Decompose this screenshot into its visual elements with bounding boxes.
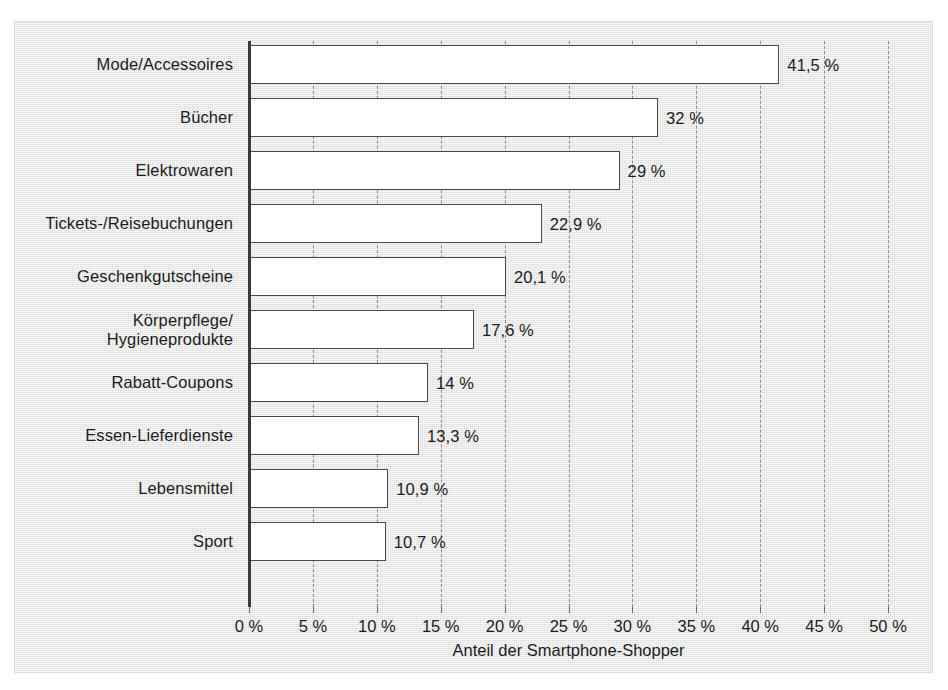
axis-tick: [441, 607, 442, 613]
axis-tick: [760, 607, 761, 613]
bar-row[interactable]: 10,9 %: [249, 469, 888, 508]
axis-tick: [824, 607, 825, 613]
bar-value-label: 29 %: [628, 161, 666, 180]
axis-tick-label: 25 %: [550, 617, 588, 636]
axis-tick-label: 20 %: [486, 617, 524, 636]
axis-tick-label: 50 %: [869, 617, 907, 636]
category-label: Elektrowaren: [3, 161, 233, 180]
bar-row[interactable]: 41,5 %: [249, 45, 888, 84]
axis-tick-label: 45 %: [805, 617, 843, 636]
axis-tick: [569, 607, 570, 613]
value-axis-spine: [248, 41, 251, 607]
bar-value-label: 22,9 %: [550, 214, 602, 233]
bar-value-label: 20,1 %: [514, 267, 566, 286]
axis-tick: [249, 607, 250, 613]
axis-tick-label: 40 %: [741, 617, 779, 636]
category-label: Tickets-/Reisebuchungen: [3, 214, 233, 233]
bar-row[interactable]: 29 %: [249, 151, 888, 190]
bar-value-label: 14 %: [436, 373, 474, 392]
axis-tick: [313, 607, 314, 613]
axis-tick-label: 5 %: [299, 617, 327, 636]
bar-row[interactable]: 17,6 %: [249, 310, 888, 349]
bar-value-label: 17,6 %: [482, 320, 534, 339]
bar-value-label: 41,5 %: [787, 55, 839, 74]
bar[interactable]: [249, 204, 542, 243]
category-label: Bücher: [3, 108, 233, 127]
category-label: Geschenkgutscheine: [3, 267, 233, 286]
bar-value-label: 10,7 %: [394, 532, 446, 551]
axis-tick-label: 0 %: [235, 617, 263, 636]
axis-tick: [632, 607, 633, 613]
category-label: Rabatt-Coupons: [3, 373, 233, 392]
bar-row[interactable]: 10,7 %: [249, 522, 888, 561]
plot-area: 41,5 %32 %29 %22,9 %20,1 %17,6 %14 %13,3…: [249, 41, 888, 607]
axis-tick-label: 10 %: [358, 617, 396, 636]
bar-value-label: 10,9 %: [396, 479, 448, 498]
axis-tick: [888, 607, 889, 613]
axis-tick: [505, 607, 506, 613]
bar-row[interactable]: 14 %: [249, 363, 888, 402]
axis-tick: [377, 607, 378, 613]
bar[interactable]: [249, 257, 506, 296]
category-label: Sport: [3, 532, 233, 551]
axis-tick-label: 30 %: [614, 617, 652, 636]
bar[interactable]: [249, 45, 779, 84]
category-label: Mode/Accessoires: [3, 55, 233, 74]
category-label: Körperpflege/Hygieneprodukte: [3, 311, 233, 349]
gridline: [888, 41, 889, 607]
bar[interactable]: [249, 151, 620, 190]
category-axis-labels: Mode/AccessoiresBücherElektrowarenTicket…: [0, 41, 233, 607]
axis-tick: [696, 607, 697, 613]
bar[interactable]: [249, 416, 419, 455]
axis-tick-label: 35 %: [677, 617, 715, 636]
bar[interactable]: [249, 522, 386, 561]
bar-row[interactable]: 22,9 %: [249, 204, 888, 243]
bar[interactable]: [249, 98, 658, 137]
bar[interactable]: [249, 363, 428, 402]
x-axis-title: Anteil der Smartphone-Shopper: [249, 641, 888, 660]
bar[interactable]: [249, 310, 474, 349]
bar[interactable]: [249, 469, 388, 508]
chart-figure: Mode/AccessoiresBücherElektrowarenTicket…: [0, 0, 948, 690]
axis-tick-label: 15 %: [422, 617, 460, 636]
bar-value-label: 32 %: [666, 108, 704, 127]
bar-row[interactable]: 13,3 %: [249, 416, 888, 455]
category-label: Lebensmittel: [3, 479, 233, 498]
bar-value-label: 13,3 %: [427, 426, 479, 445]
category-label: Essen-Lieferdienste: [3, 426, 233, 445]
bar-row[interactable]: 20,1 %: [249, 257, 888, 296]
bar-row[interactable]: 32 %: [249, 98, 888, 137]
